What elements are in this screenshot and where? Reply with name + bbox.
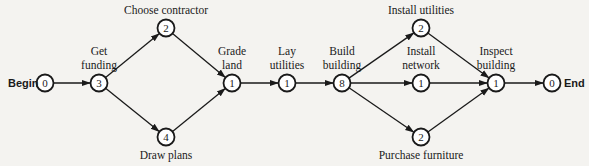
node-duration: 1: [493, 77, 499, 89]
node-duration: 1: [418, 77, 424, 89]
node-label-get-funding: Get: [91, 45, 108, 57]
edge-get-funding-to-draw-plans: [106, 88, 159, 131]
node-duration: 4: [163, 131, 169, 143]
node-lay-utilities: 1: [279, 75, 296, 92]
node-label-get-funding: funding: [81, 59, 117, 72]
node-label-lay-utilities: utilities: [270, 59, 305, 71]
node-duration: 1: [229, 77, 235, 89]
node-duration: 0: [549, 77, 555, 89]
node-choose-contractor: 2: [158, 20, 175, 37]
network-canvas: 032411821210 GetfundingChoose contractor…: [0, 0, 589, 166]
node-duration: 3: [96, 77, 102, 89]
node-get-funding: 3: [91, 75, 108, 92]
activity-network-diagram: 032411821210 GetfundingChoose contractor…: [0, 0, 589, 166]
edge-get-funding-to-choose-contractor: [106, 34, 159, 78]
node-duration: 2: [418, 22, 424, 34]
node-draw-plans: 4: [158, 129, 175, 146]
begin-label: Begin: [8, 77, 39, 89]
node-duration: 1: [284, 77, 290, 89]
node-install-utilities: 2: [413, 20, 430, 37]
node-label-build-building: Build: [329, 45, 355, 57]
edge-build-building-to-purchase-furniture: [349, 88, 414, 132]
node-label-lay-utilities: Lay: [278, 45, 296, 58]
node-duration: 0: [42, 77, 48, 89]
node-label-draw-plans: Draw plans: [140, 149, 193, 162]
node-duration: 2: [163, 22, 169, 34]
node-build-building: 8: [334, 75, 351, 92]
node-label-install-network: network: [402, 59, 440, 71]
node-duration: 8: [339, 77, 345, 89]
edge-purchase-furniture-to-inspect-building: [428, 88, 489, 132]
node-begin: 0: [37, 75, 54, 92]
node-end: 0: [544, 75, 561, 92]
node-label-choose-contractor: Choose contractor: [124, 4, 208, 16]
node-label-inspect-building: building: [477, 59, 516, 72]
node-label-inspect-building: Inspect: [479, 45, 513, 58]
node-inspect-building: 1: [488, 75, 505, 92]
node-grade-land: 1: [224, 75, 241, 92]
node-label-grade-land: Grade: [218, 45, 246, 57]
node-label-purchase-furniture: Purchase furniture: [379, 149, 464, 161]
node-label-install-utilities: Install utilities: [388, 4, 455, 16]
edges-layer: [54, 33, 544, 132]
node-duration: 2: [418, 131, 424, 143]
edge-build-building-to-install-utilities: [349, 33, 414, 78]
node-label-install-network: Install: [407, 45, 436, 57]
node-purchase-furniture: 2: [413, 129, 430, 146]
node-label-build-building: building: [323, 59, 362, 72]
edge-draw-plans-to-grade-land: [173, 89, 225, 132]
node-label-grade-land: land: [222, 59, 242, 71]
end-label: End: [564, 77, 585, 89]
node-install-network: 1: [413, 75, 430, 92]
